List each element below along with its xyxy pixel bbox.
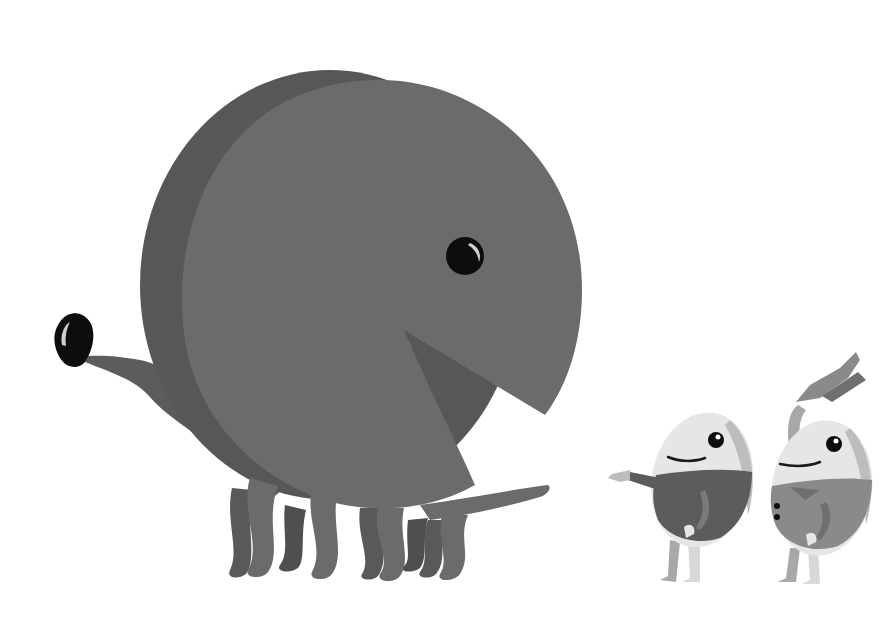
left-egg-eye (708, 432, 724, 448)
button (774, 503, 780, 509)
illustration-scene (0, 0, 890, 623)
right-egg-eye (826, 436, 842, 452)
dinosaur-eye (446, 237, 484, 275)
button (774, 514, 780, 520)
